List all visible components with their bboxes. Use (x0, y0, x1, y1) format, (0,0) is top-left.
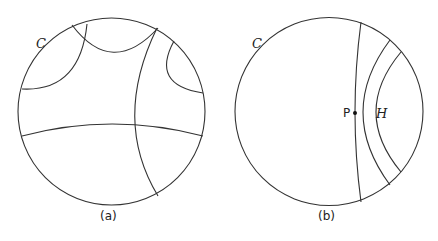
panel-b-caption: (b) (318, 209, 335, 223)
panel-b-boundary-circle (235, 18, 423, 206)
point-p-marker (353, 111, 357, 115)
region-h-label: H (375, 106, 388, 121)
panel-a-geodesic-horizontal (22, 124, 203, 136)
panel-a-circle-label: C (36, 36, 46, 51)
panel-a-geodesic-top-left (22, 24, 87, 89)
hyperbolic-disk-figure: C (a) C P H (b) (0, 0, 438, 241)
panel-a-geodesic-top (72, 25, 158, 52)
point-p-label: P (343, 106, 350, 120)
panel-a-geodesic-vertical (135, 28, 158, 196)
panel-a-geodesic-top-right (167, 41, 203, 93)
panel-a-boundary-circle (18, 18, 205, 205)
panel-b-circle-label: C (252, 36, 262, 51)
panel-a-caption: (a) (100, 209, 117, 223)
